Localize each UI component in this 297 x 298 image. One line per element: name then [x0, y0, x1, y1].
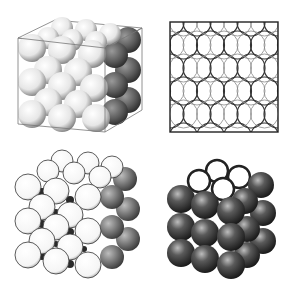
- panel-fcc-projection: [149, 0, 297, 149]
- circle-pattern-illustration: [149, 0, 297, 149]
- fcc-interstitial-illustration: [0, 149, 148, 298]
- figure: [0, 0, 297, 298]
- panel-fcc-boxed: [0, 0, 148, 149]
- panel-fcc-interstitial: [0, 149, 148, 298]
- panel-fcc-dark: [149, 149, 297, 298]
- fcc-dark-illustration: [149, 149, 297, 298]
- fcc-boxed-illustration: [0, 0, 148, 149]
